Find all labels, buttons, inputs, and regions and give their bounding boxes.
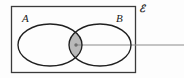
- set-b-label: B: [116, 13, 123, 24]
- venn-diagram-figure: A B ℰ: [0, 0, 184, 78]
- set-a-label: A: [22, 13, 29, 24]
- intersection-marker-dot: [74, 43, 77, 46]
- universal-set-label: ℰ: [139, 4, 145, 14]
